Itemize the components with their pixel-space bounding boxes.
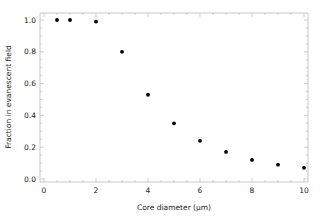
axis-ticks: [40, 13, 308, 182]
x-tick-label: 6: [198, 186, 203, 195]
data-point: [94, 20, 98, 24]
data-point: [55, 18, 59, 22]
data-point: [120, 50, 124, 54]
y-axis-label: Fraction in evanescent field: [4, 45, 13, 149]
data-point: [250, 158, 254, 162]
y-tick-label: 0.4: [24, 111, 36, 120]
data-point: [68, 18, 72, 22]
data-points: [55, 18, 306, 170]
y-tick-label: 0.2: [24, 143, 36, 152]
plot-frame: [40, 13, 308, 182]
x-tick-label: 8: [250, 186, 255, 195]
x-tick-labels: 0246810: [42, 186, 309, 195]
y-tick-label: 0.6: [24, 79, 36, 88]
data-point: [224, 150, 228, 154]
scatter-chart: 0246810 0.00.20.40.60.81.0 Core diameter…: [0, 0, 325, 219]
x-tick-label: 2: [94, 186, 99, 195]
x-tick-label: 0: [42, 186, 47, 195]
x-tick-label: 10: [299, 186, 309, 195]
y-tick-label: 0.0: [24, 175, 36, 184]
data-point: [276, 163, 280, 167]
data-point: [172, 121, 176, 125]
y-tick-label: 1.0: [24, 16, 36, 25]
y-tick-labels: 0.00.20.40.60.81.0: [24, 16, 36, 184]
y-tick-label: 0.8: [24, 47, 36, 56]
x-axis-label: Core diameter (μm): [137, 203, 211, 212]
data-point: [146, 93, 150, 97]
x-tick-label: 4: [146, 186, 151, 195]
data-point: [302, 166, 306, 170]
data-point: [198, 139, 202, 143]
